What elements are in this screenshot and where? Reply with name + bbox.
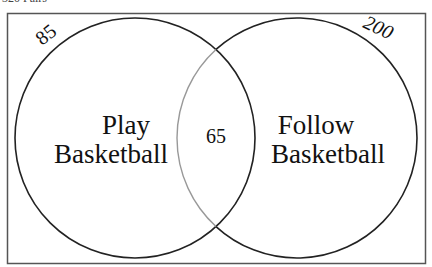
venn-diagram: Play Basketball Follow Basketball 65 85 …: [0, 0, 432, 267]
set-a-total: 85: [31, 20, 60, 50]
set-b-label-line2: Basketball: [271, 139, 385, 169]
set-a-label-line1: Play: [102, 110, 151, 140]
set-b-total: 200: [360, 11, 396, 44]
intersection-count: 65: [206, 125, 226, 147]
set-a-label-line2: Basketball: [54, 139, 168, 169]
set-b-label-line1: Follow: [278, 110, 355, 140]
